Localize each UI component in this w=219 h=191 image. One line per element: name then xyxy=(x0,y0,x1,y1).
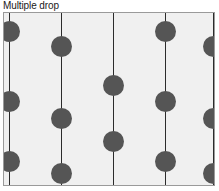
drop-motif xyxy=(155,21,176,42)
drop-motif xyxy=(103,131,124,152)
repeat-line xyxy=(113,13,114,185)
drop-motif xyxy=(51,163,72,184)
pattern-panel xyxy=(3,12,215,186)
drop-motif xyxy=(51,108,72,129)
drop-motif xyxy=(203,108,216,129)
drop-motif xyxy=(155,151,176,172)
drop-motif xyxy=(3,91,20,112)
drop-motif xyxy=(51,36,72,57)
multiple-drop-figure: Multiple drop xyxy=(0,0,219,191)
drop-motif xyxy=(155,91,176,112)
drop-motif xyxy=(3,151,20,172)
drop-motif xyxy=(203,36,216,57)
drop-motif xyxy=(103,75,124,96)
figure-title: Multiple drop xyxy=(3,0,59,12)
drop-motif xyxy=(203,163,216,184)
drop-motif xyxy=(3,21,20,42)
